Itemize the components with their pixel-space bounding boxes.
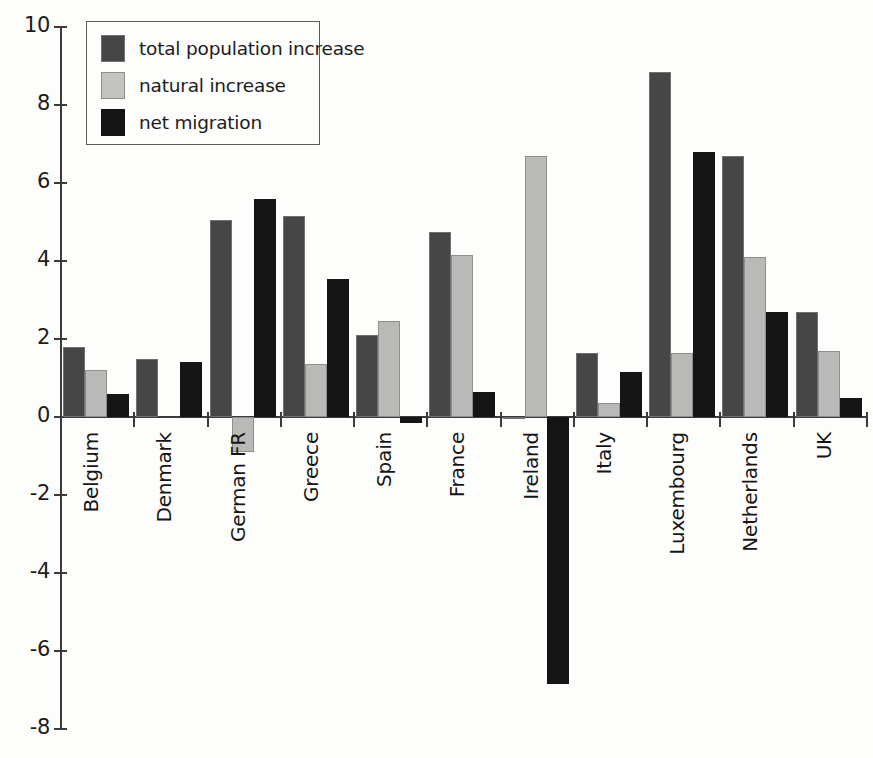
bar-total [503, 417, 525, 419]
bar-migration [473, 392, 495, 417]
x-axis-tick [646, 412, 648, 427]
bar-natural [671, 353, 693, 417]
bar-total [649, 72, 671, 417]
category-label: Denmark [152, 432, 176, 523]
bar-chart-plot-area: 1086420-2-4-6-8 BelgiumDenmarkGerman FRG… [0, 0, 873, 758]
y-axis-tick-label: -2 [6, 483, 50, 504]
y-axis-line [60, 27, 62, 730]
legend-label: total population increase [139, 38, 364, 59]
legend-label: natural increase [139, 75, 286, 96]
bar-total [210, 220, 232, 417]
bar-migration [180, 362, 202, 417]
y-axis-tick-label: -6 [6, 639, 50, 660]
bar-total [283, 216, 305, 417]
x-axis-tick [280, 412, 282, 427]
x-axis-tick [719, 412, 721, 427]
y-axis-tick [54, 572, 67, 574]
chart-legend: total population increasenatural increas… [86, 21, 320, 145]
bar-natural [451, 255, 473, 417]
bar-migration [107, 394, 129, 417]
category-label: Italy [592, 432, 616, 474]
y-axis-tick-label: 0 [6, 405, 50, 426]
y-axis-tick-label: 6 [6, 171, 50, 192]
category-label: UK [812, 432, 836, 459]
y-axis-tick [54, 728, 67, 730]
bar-migration [766, 312, 788, 417]
category-label: Spain [372, 432, 396, 487]
bar-migration [840, 398, 862, 418]
y-axis-tick [54, 260, 67, 262]
bar-total [63, 347, 85, 417]
y-axis-tick-label: -4 [6, 561, 50, 582]
bar-total [796, 312, 818, 417]
bar-total [429, 232, 451, 417]
y-axis-tick [54, 104, 67, 106]
bar-migration [327, 279, 349, 417]
legend-swatch-migration [101, 109, 125, 136]
category-label: Netherlands [738, 432, 762, 552]
y-axis-tick-label: 10 [6, 15, 50, 36]
y-axis-tick [54, 26, 67, 28]
legend-label: net migration [139, 112, 262, 133]
y-axis-tick [54, 182, 67, 184]
bar-natural [598, 403, 620, 417]
x-axis-tick [573, 412, 575, 427]
bar-total [722, 156, 744, 417]
category-label: Ireland [519, 432, 543, 500]
bar-natural [85, 370, 107, 417]
y-axis-tick [54, 494, 67, 496]
category-label: Luxembourg [665, 432, 689, 555]
bar-total [576, 353, 598, 417]
x-axis-tick [207, 412, 209, 427]
category-label: France [445, 432, 469, 497]
bar-natural [525, 156, 547, 417]
bar-migration [620, 372, 642, 417]
y-axis-tick [54, 650, 67, 652]
x-axis-tick [793, 412, 795, 427]
legend-swatch-total [101, 35, 125, 62]
chart-page: 1086420-2-4-6-8 BelgiumDenmarkGerman FRG… [0, 0, 873, 758]
x-axis-tick [426, 412, 428, 427]
x-axis-tick [60, 412, 62, 427]
bar-total [136, 359, 158, 418]
x-axis-tick [500, 412, 502, 427]
x-axis-tick [866, 412, 868, 427]
legend-swatch-natural [101, 72, 125, 99]
bar-natural [305, 364, 327, 417]
y-axis-tick-label: 2 [6, 327, 50, 348]
bar-natural [818, 351, 840, 417]
bar-natural [378, 321, 400, 417]
y-axis-tick-label: 8 [6, 93, 50, 114]
bar-natural [744, 257, 766, 417]
bar-migration [693, 152, 715, 417]
bar-total [356, 335, 378, 417]
x-axis-tick [133, 412, 135, 427]
y-axis-tick-label: 4 [6, 249, 50, 270]
x-axis-tick [353, 412, 355, 427]
category-label: Belgium [79, 432, 103, 513]
category-label: German FR [226, 432, 250, 542]
y-axis-tick [54, 338, 67, 340]
bar-migration [254, 199, 276, 417]
bar-migration [400, 417, 422, 423]
category-label: Greece [299, 432, 323, 502]
y-axis-tick-label: -8 [6, 717, 50, 738]
bar-migration [547, 417, 569, 684]
